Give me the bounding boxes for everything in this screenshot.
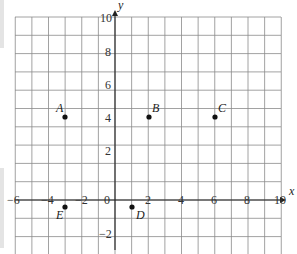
y-tick: 2 [105, 144, 111, 158]
point-c [212, 114, 217, 119]
x-axis-label: x [288, 184, 295, 198]
point-e-label: E [55, 208, 64, 222]
point-d [129, 204, 134, 209]
x-tick: 6 [211, 193, 217, 207]
y-tick: −2 [99, 227, 112, 241]
point-a [62, 114, 67, 119]
x-tick: 2 [145, 193, 151, 207]
point-b [146, 114, 151, 119]
x-tick: 10 [274, 193, 286, 207]
x-tick: 4 [178, 193, 184, 207]
point-b-label: B [152, 101, 160, 115]
y-tick: 10 [100, 11, 112, 25]
y-tick: 4 [105, 111, 111, 125]
x-tick: 8 [244, 193, 250, 207]
point-d-label: D [135, 208, 145, 222]
x-tick-labels: −6 −4 −2 0 2 4 6 8 10 [7, 193, 286, 207]
point-c-label: C [218, 101, 227, 115]
y-axis-label: y [117, 0, 124, 12]
origin-label: 0 [104, 193, 110, 207]
coordinate-grid: x y −6 −4 −2 0 2 4 6 8 10 10 8 6 4 2 −2 … [0, 0, 297, 254]
y-tick: 8 [105, 45, 111, 59]
x-tick: −4 [41, 193, 54, 207]
point-a-label: A [55, 101, 64, 115]
x-tick: −6 [7, 193, 20, 207]
y-tick: 6 [105, 78, 111, 92]
x-tick: −2 [75, 193, 88, 207]
grid-lines [15, 17, 281, 254]
